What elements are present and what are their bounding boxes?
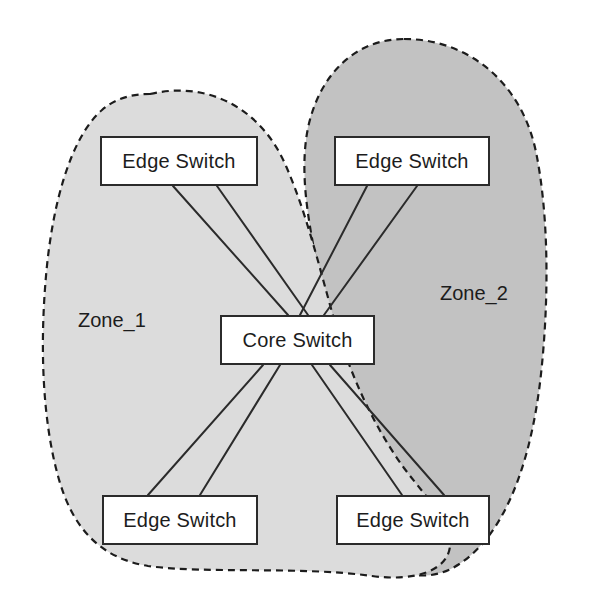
network-zone-diagram: Zone_1 Zone_2 Edge Switch Edge Switch Co…	[0, 0, 593, 607]
edge-switch-bottom-right[interactable]: Edge Switch	[336, 495, 490, 545]
edge-switch-top-right[interactable]: Edge Switch	[334, 136, 490, 186]
zone-1-label: Zone_1	[78, 309, 146, 332]
edge-switch-top-left-label: Edge Switch	[122, 150, 235, 173]
edge-switch-bottom-left[interactable]: Edge Switch	[102, 495, 258, 545]
edge-switch-bottom-right-label: Edge Switch	[356, 509, 469, 532]
core-switch[interactable]: Core Switch	[220, 315, 375, 365]
zone-2-label: Zone_2	[440, 282, 508, 305]
edge-switch-top-left[interactable]: Edge Switch	[100, 136, 258, 186]
edge-switch-top-right-label: Edge Switch	[355, 150, 468, 173]
edge-switch-bottom-left-label: Edge Switch	[123, 509, 236, 532]
core-switch-label: Core Switch	[242, 329, 352, 352]
